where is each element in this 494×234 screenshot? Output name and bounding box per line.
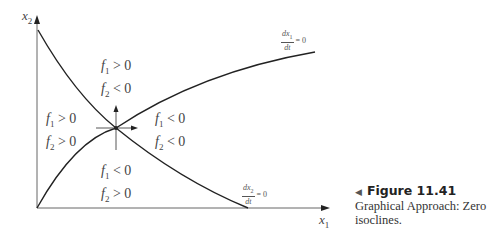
- equilibrium-point: [114, 126, 118, 130]
- up-arrow-icon: [114, 105, 119, 112]
- x-axis-label: x1: [319, 211, 329, 234]
- triangle-left-icon: ◀: [355, 187, 362, 197]
- region-left-label: f1 > 0 f2 > 0: [46, 110, 76, 156]
- dx2-isocline-label: dx2dt = 0: [242, 183, 267, 206]
- region-top-label: f1 > 0 f2 < 0: [101, 57, 131, 103]
- figure-caption-text: Graphical Approach: Zero isoclines.: [355, 199, 494, 227]
- dx1-isocline-label: dx1dt = 0: [281, 29, 306, 52]
- figure-number: ◀Figure 11.41: [355, 183, 494, 198]
- y-axis-arrow: [34, 15, 40, 24]
- figure-caption: ◀Figure 11.41 Graphical Approach: Zero i…: [355, 183, 494, 227]
- region-bottom-label: f1 < 0 f2 > 0: [101, 162, 131, 208]
- region-right-label: f1 < 0 f2 < 0: [155, 110, 185, 156]
- right-arrow-icon: [131, 126, 138, 131]
- y-axis-label: x2: [22, 7, 32, 30]
